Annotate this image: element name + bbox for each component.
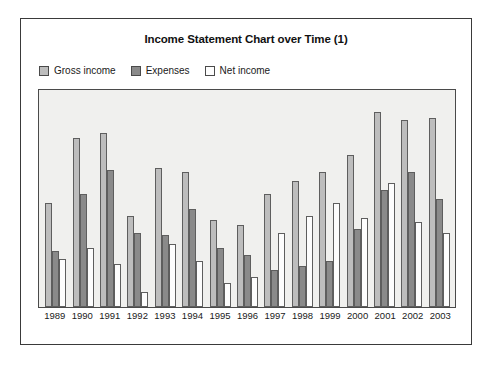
bar-gross-1996 — [237, 225, 244, 307]
bar-exp-1990 — [80, 194, 87, 307]
bar-net-1996 — [251, 277, 258, 307]
bars-container — [39, 90, 455, 307]
bar-gross-1998 — [292, 181, 299, 307]
bar-exp-1998 — [299, 266, 306, 307]
tick-label-1996: 1996 — [234, 310, 262, 321]
bar-gross-2002 — [401, 120, 408, 307]
bar-exp-1992 — [134, 233, 141, 307]
bar-net-1989 — [59, 259, 66, 307]
legend-entry-gross: Gross income — [39, 65, 116, 76]
legend-entry-expenses: Expenses — [131, 65, 190, 76]
bar-gross-2003 — [429, 118, 436, 307]
tick-label-2002: 2002 — [399, 310, 427, 321]
bar-exp-2002 — [408, 172, 415, 307]
bar-gross-1995 — [210, 220, 217, 307]
bar-net-1997 — [278, 233, 285, 307]
bar-exp-1994 — [189, 209, 196, 307]
tick-label-1993: 1993 — [151, 310, 179, 321]
bar-exp-1991 — [107, 170, 114, 307]
bar-group-1993 — [152, 90, 179, 307]
bar-group-1997 — [261, 90, 288, 307]
legend-label-expenses: Expenses — [146, 65, 190, 76]
bar-exp-2003 — [436, 199, 443, 308]
chart-title: Income Statement Chart over Time (1) — [21, 33, 471, 45]
bar-group-2003 — [426, 90, 453, 307]
tick-label-1992: 1992 — [124, 310, 152, 321]
bar-group-2000 — [343, 90, 370, 307]
tick-label-2001: 2001 — [371, 310, 399, 321]
bar-group-1999 — [316, 90, 343, 307]
tick-label-1998: 1998 — [289, 310, 317, 321]
bar-gross-1992 — [127, 216, 134, 307]
tick-label-1990: 1990 — [69, 310, 97, 321]
tick-label-1999: 1999 — [316, 310, 344, 321]
bar-gross-1989 — [45, 203, 52, 307]
bar-gross-1991 — [100, 133, 107, 307]
legend-entry-net: Net income — [205, 65, 271, 76]
bar-exp-1997 — [271, 270, 278, 307]
bar-group-2001 — [371, 90, 398, 307]
bar-group-1992 — [124, 90, 151, 307]
bar-exp-1993 — [162, 235, 169, 307]
bar-exp-2001 — [381, 190, 388, 307]
legend-swatch-net — [205, 66, 215, 76]
chart-figure: Income Statement Chart over Time (1) Gro… — [20, 18, 472, 345]
bar-net-1993 — [169, 244, 176, 307]
plot-area — [38, 89, 456, 308]
bar-group-1990 — [69, 90, 96, 307]
bar-net-2000 — [361, 218, 368, 307]
bar-net-1995 — [224, 283, 231, 307]
bar-group-1996 — [234, 90, 261, 307]
bar-exp-1989 — [52, 251, 59, 307]
tick-label-1994: 1994 — [179, 310, 207, 321]
legend-label-gross: Gross income — [54, 65, 116, 76]
bar-net-2001 — [388, 183, 395, 307]
bar-group-1991 — [97, 90, 124, 307]
x-axis-tick-labels: 1989199019911992199319941995199619971998… — [38, 310, 456, 321]
tick-label-1995: 1995 — [206, 310, 234, 321]
bar-gross-1994 — [182, 172, 189, 307]
tick-label-2000: 2000 — [344, 310, 372, 321]
bar-net-1991 — [114, 264, 121, 307]
bar-group-1995 — [206, 90, 233, 307]
bar-gross-1993 — [155, 168, 162, 307]
legend-label-net: Net income — [220, 65, 271, 76]
bar-gross-2001 — [374, 112, 381, 307]
bar-gross-1990 — [73, 138, 80, 307]
chart-legend: Gross incomeExpensesNet income — [39, 65, 270, 76]
bar-net-1998 — [306, 216, 313, 307]
bar-net-1999 — [333, 203, 340, 307]
bar-group-2002 — [398, 90, 425, 307]
bar-net-2002 — [415, 222, 422, 307]
tick-label-1997: 1997 — [261, 310, 289, 321]
bar-gross-1997 — [264, 194, 271, 307]
bar-net-1994 — [196, 261, 203, 307]
tick-label-1989: 1989 — [41, 310, 69, 321]
bar-net-1992 — [141, 292, 148, 307]
bar-net-1990 — [87, 248, 94, 307]
bar-exp-1996 — [244, 255, 251, 307]
bar-net-2003 — [443, 233, 450, 307]
bar-exp-1999 — [326, 261, 333, 307]
bar-exp-1995 — [217, 248, 224, 307]
bar-gross-1999 — [319, 172, 326, 307]
legend-swatch-expenses — [131, 66, 141, 76]
bar-group-1989 — [42, 90, 69, 307]
tick-label-2003: 2003 — [426, 310, 454, 321]
legend-swatch-gross — [39, 66, 49, 76]
tick-label-1991: 1991 — [96, 310, 124, 321]
bar-group-1998 — [289, 90, 316, 307]
bar-group-1994 — [179, 90, 206, 307]
bar-exp-2000 — [354, 229, 361, 307]
bar-gross-2000 — [347, 155, 354, 307]
